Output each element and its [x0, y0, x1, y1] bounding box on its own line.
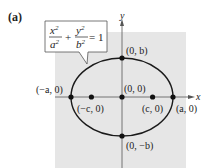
label-left-focus: (−c, 0) [77, 103, 104, 115]
y-axis-label: y [119, 10, 125, 21]
panel-label: (a) [8, 10, 22, 24]
point-center [119, 94, 124, 99]
point-left-vertex [68, 94, 73, 99]
ellipse-diagram: x y (0, b) (0, −b) (−a, 0) (a, 0) (0, 0)… [0, 0, 213, 168]
label-bottom-vertex: (0, −b) [126, 140, 153, 152]
eq-equals-one: = 1 [89, 31, 103, 43]
point-bottom-vertex [119, 133, 124, 138]
label-right-vertex: (a, 0) [176, 103, 197, 115]
label-top-vertex: (0, b) [126, 45, 148, 57]
label-left-vertex: (−a, 0) [36, 84, 63, 96]
point-left-focus [89, 94, 94, 99]
point-right-vertex [170, 94, 175, 99]
x-axis-label: x [195, 91, 201, 102]
point-top-vertex [119, 55, 124, 60]
eq-plus: + [65, 31, 71, 43]
point-right-focus [150, 94, 155, 99]
label-center: (0, 0) [124, 83, 146, 95]
label-right-focus: (c, 0) [142, 103, 163, 115]
x-axis-arrow-icon [188, 95, 195, 99]
